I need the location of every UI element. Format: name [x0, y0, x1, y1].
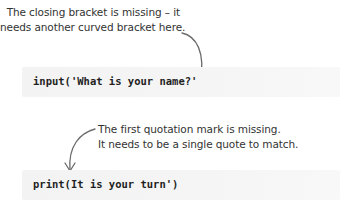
- code-example-print: print(It is your turn'): [22, 170, 340, 200]
- code-line: print(It is your turn'): [33, 178, 178, 190]
